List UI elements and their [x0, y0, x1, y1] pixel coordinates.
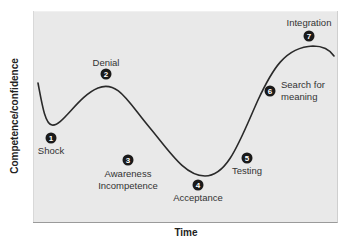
- stage-4-marker: 4: [193, 180, 204, 191]
- stage-7-label: Integration: [287, 17, 332, 29]
- stage-2-label: Denial: [93, 57, 120, 69]
- stage-2-marker: 2: [101, 69, 112, 80]
- stage-6-label-line2: meaning: [281, 91, 325, 103]
- stage-4-label: Acceptance: [173, 192, 223, 204]
- stage-3-label: Awareness Incompetence: [98, 168, 158, 192]
- transition-curve: [0, 0, 354, 242]
- stage-3-marker: 3: [123, 155, 134, 166]
- stage-6-label: Search for meaning: [281, 79, 325, 103]
- stage-7-marker: 7: [304, 31, 315, 42]
- stage-1-marker: 1: [46, 133, 57, 144]
- stage-3-label-line2: Incompetence: [98, 180, 158, 192]
- stage-6-marker: 6: [265, 86, 276, 97]
- y-axis-label: Competence/confidence: [9, 58, 20, 174]
- stage-6-label-line1: Search for: [281, 79, 325, 91]
- stage-3-label-line1: Awareness: [98, 168, 158, 180]
- stage-5-marker: 5: [242, 153, 253, 164]
- stage-5-label: Testing: [232, 165, 262, 177]
- stage-1-label: Shock: [38, 145, 64, 157]
- x-axis-label: Time: [174, 227, 197, 238]
